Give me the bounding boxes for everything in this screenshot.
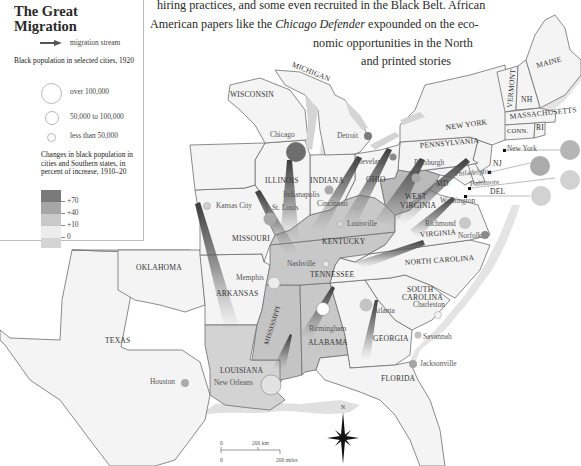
label-atlanta: Atlanta — [373, 306, 395, 315]
scale-mi-zero: 0 — [220, 457, 223, 463]
label-oklahoma: OKLAHOMA — [136, 263, 182, 272]
city-marker-jacksonville[interactable] — [409, 360, 417, 368]
legend-change-heading: Changes in black population in cities an… — [41, 151, 141, 177]
legend-size-large: over 100,000 — [70, 88, 109, 97]
label-texas: TEXAS — [105, 336, 130, 345]
label-chicago: Chicago — [270, 130, 295, 139]
city-marker-cleveland[interactable] — [390, 154, 397, 161]
city-circle-philadelphia[interactable] — [530, 156, 550, 176]
label-birmingham: Birmingham — [309, 324, 347, 333]
label-louisiana: LOUISIANA — [220, 366, 263, 375]
label-houston: Houston — [150, 377, 175, 386]
city-marker-richmond[interactable] — [459, 217, 471, 229]
label-savannah: Savannah — [423, 332, 452, 341]
label-florida: FLORIDA — [381, 374, 416, 383]
city-marker-louisville[interactable] — [337, 221, 343, 227]
city-marker-houston[interactable] — [181, 379, 189, 387]
label-ohio: OHIO — [366, 175, 386, 184]
label-nh: NH — [521, 95, 533, 104]
state-iowa — [190, 143, 265, 190]
label-new-orleans: New Orleans — [214, 378, 253, 387]
label-jacksonville: Jacksonville — [420, 359, 457, 368]
scale-km-label: 200 km — [252, 440, 269, 446]
label-nj: NJ — [493, 159, 502, 168]
legend-size-medium: 50,000 to 100,000 — [70, 113, 124, 122]
legend-title-line-1: The Great — [14, 4, 78, 19]
scale-label-10: +10 — [67, 221, 79, 230]
scale-label-40: +40 — [67, 209, 79, 218]
label-west-virginia-1: WEST — [405, 192, 427, 201]
label-del: DEL — [490, 187, 506, 196]
label-memphis: Memphis — [236, 273, 264, 282]
scale-label-0: 0 — [67, 233, 71, 242]
scale-mi-label: 200 miles — [276, 457, 298, 463]
label-conn: CONN. — [507, 127, 528, 134]
city-circle-washington[interactable] — [531, 186, 551, 206]
state-oklahoma-body — [118, 250, 205, 312]
label-illinois: ILLINOIS — [265, 176, 299, 185]
city-marker-chicago[interactable] — [286, 142, 306, 162]
legend-size-small: less than 50,000 — [70, 132, 118, 141]
city-marker-nashville[interactable] — [323, 261, 329, 267]
scale-label-70: +70 — [67, 197, 79, 206]
city-marker-savannah[interactable] — [415, 332, 422, 339]
label-kansas-city: Kansas City — [216, 201, 252, 210]
scale-bar: 0 200 km 0 200 miles — [220, 440, 298, 463]
legend-population-heading: Black population in selected cities, 192… — [14, 57, 134, 66]
label-detroit: Detroit — [337, 131, 359, 140]
label-washington: Washington — [440, 196, 475, 205]
label-norfolk: Norfolk — [458, 231, 482, 240]
compass-north-label: N — [341, 404, 345, 410]
legend-title-line-2: Migration — [14, 19, 78, 34]
label-indianapolis: Indianapolis — [283, 190, 320, 199]
city-circle-baltimore[interactable] — [560, 170, 580, 190]
city-marker-detroit[interactable] — [364, 132, 372, 140]
swatch-base — [41, 238, 61, 248]
label-wisconsin: WISCONSIN — [230, 90, 274, 99]
label-tennessee: TENNESSEE — [310, 270, 355, 279]
city-marker-birmingham[interactable] — [317, 303, 330, 316]
city-marker-pittsburgh[interactable] — [412, 174, 421, 183]
label-richmond: Richmond — [425, 219, 456, 228]
label-cleveland: Cleveland — [355, 157, 385, 166]
size-small-icon — [47, 133, 56, 142]
swatch-10 — [41, 214, 61, 226]
label-arkansas: ARKANSAS — [216, 289, 259, 298]
legend-stream-label: migration stream — [70, 39, 120, 48]
label-md: MD — [436, 179, 449, 188]
size-medium-icon — [45, 111, 59, 125]
legend-panel: The Great Migration migration stream Bla… — [0, 0, 144, 241]
city-marker-newyork[interactable] — [503, 149, 506, 152]
label-cincinnati: Cincinnati — [317, 199, 348, 208]
city-marker-stlouis[interactable] — [264, 213, 277, 226]
city-marker-kansascity[interactable] — [204, 203, 211, 210]
migration-stream-arrow-icon — [40, 40, 62, 46]
city-marker-neworleans[interactable] — [261, 375, 281, 395]
legend-title: The Great Migration — [14, 4, 78, 34]
city-marker-cincinnati[interactable] — [353, 202, 362, 211]
swatch-40 — [41, 202, 61, 214]
label-missouri: MISSOURI — [232, 234, 270, 243]
label-west-virginia-2: VIRGINIA — [400, 201, 437, 210]
label-indiana: INDIANA — [310, 176, 344, 185]
label-philadelphia: Philadelphia — [455, 166, 493, 178]
scale-km-zero: 0 — [220, 440, 223, 446]
label-nashville: Nashville — [287, 259, 316, 268]
state-new-york[interactable] — [400, 65, 510, 145]
city-marker-norfolk[interactable] — [481, 231, 489, 239]
size-large-icon — [41, 83, 62, 104]
city-circle-newyork[interactable] — [560, 140, 580, 160]
label-kentucky: KENTUCKY — [322, 237, 366, 246]
city-marker-atlanta[interactable] — [360, 299, 373, 312]
label-new-york: New York — [507, 144, 537, 153]
city-marker-memphis[interactable] — [268, 277, 280, 289]
label-st-louis: St. Louis — [272, 203, 299, 212]
label-ri: RI — [536, 123, 544, 132]
swatch-70 — [41, 190, 61, 202]
city-marker-charleston[interactable] — [435, 312, 442, 319]
label-charleston: Charleston — [413, 300, 445, 309]
city-marker-indianapolis[interactable] — [325, 186, 334, 195]
label-georgia: GEORGIA — [373, 334, 409, 343]
swatch-0 — [41, 226, 61, 238]
label-pittsburgh: Pittsburgh — [414, 158, 445, 167]
